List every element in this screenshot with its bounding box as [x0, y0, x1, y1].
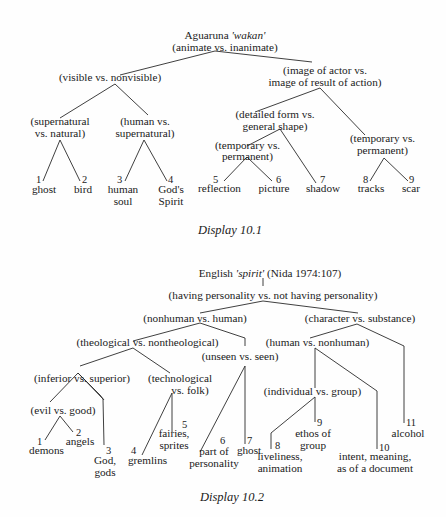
root-language: English [199, 267, 236, 279]
leaf-gods-spirit: God'sSpirit [151, 184, 191, 207]
leaf-bird: bird [68, 184, 98, 196]
node-theological: (theological vs. nontheological) [60, 337, 235, 349]
leaf-label: human [108, 183, 138, 195]
node-human-nonhuman: (human vs. nonhuman) [255, 337, 380, 349]
root-node-english: English 'spirit' (Nida 1974:107) [180, 268, 360, 280]
leaf-ethos-of-group: ethos ofgroup [288, 428, 338, 451]
leaf-god-gods: God,gods [90, 455, 120, 478]
node-technological-line1: (technological [140, 373, 220, 385]
leaf-gremlins: gremlins [125, 455, 170, 467]
leaf-label: ethos of [295, 427, 331, 439]
node-character-substance: (character vs. substance) [290, 313, 430, 325]
leaf-reflection: reflection [192, 183, 247, 195]
leaf-label: Spirit [159, 195, 184, 207]
node-technological-line2: vs. folk) [160, 385, 220, 397]
leaf-picture: picture [253, 183, 295, 195]
node-detailed-line1: (detailed form vs. [220, 109, 330, 121]
node-temporary2-line2: permanent) [335, 145, 430, 157]
node-nonhuman-human: (nonhuman vs. human) [130, 313, 260, 325]
leaf-alcohol: alcohol [388, 428, 428, 440]
node-having-personality: (having personality vs. not having perso… [148, 290, 398, 302]
leaf-scar: scar [396, 183, 426, 195]
leaf-human-soul: humansoul [103, 184, 143, 207]
node-individual-group: (individual vs. group) [245, 386, 380, 398]
node-image-line1: (image of actor vs. [255, 65, 395, 77]
leaf-tracks: tracks [352, 183, 390, 195]
root-source: (Nida 1974:107) [264, 267, 341, 279]
leaf-label: soul [114, 195, 133, 207]
node-detailed-line2: general shape) [220, 121, 330, 133]
leaf-angels: angels [60, 436, 100, 448]
node-image-line2: image of result of action) [245, 77, 405, 89]
leaf-label: part of [199, 445, 229, 457]
leaf-liveliness-animation: liveliness,animation [250, 451, 310, 474]
leaf-label: as of a document [337, 462, 413, 474]
leaf-label: fairies, [159, 427, 190, 439]
leaf-intent-meaning: intent, meaning,as of a document [330, 451, 420, 474]
leaf-label: God's [158, 183, 184, 195]
node-temporary2-line1: (temporary vs. [335, 133, 430, 145]
node-supernatural-line1: (supernatural [20, 116, 100, 128]
node-human-line2: supernatural) [105, 128, 185, 140]
node-unseen-seen: (unseen vs. seen) [190, 351, 290, 363]
leaf-shadow: shadow [302, 183, 344, 195]
root-word: 'wakan' [231, 29, 265, 41]
leaf-label: personality [189, 457, 239, 469]
root-word: 'spirit' [236, 267, 264, 279]
node-human-line1: (human vs. [105, 116, 185, 128]
node-supernatural-line2: vs. natural) [20, 128, 100, 140]
node-inferior-superior: (inferior vs. superior) [22, 373, 142, 385]
leaf-ghost: ghost [24, 184, 64, 196]
node-animate: (animate vs. inanimate) [150, 42, 300, 54]
caption-display-10-1: Display 10.1 [198, 223, 262, 238]
root-language: Aguaruna [185, 29, 232, 41]
leaf-label: gods [94, 466, 115, 478]
leaf-label: animation [258, 462, 303, 474]
node-visible: (visible vs. nonvisible) [40, 72, 180, 84]
leaf-label: intent, meaning, [339, 450, 411, 462]
caption-display-10-2: Display 10.2 [200, 490, 264, 505]
root-node-aguaruna: Aguaruna 'wakan' [150, 30, 300, 42]
leaf-label: group [300, 439, 326, 451]
leaf-label: liveliness, [257, 450, 302, 462]
leaf-label: God, [94, 454, 116, 466]
node-evil-good: (evil vs. good) [22, 405, 104, 417]
node-temporary1-line2: permanent) [200, 151, 295, 163]
